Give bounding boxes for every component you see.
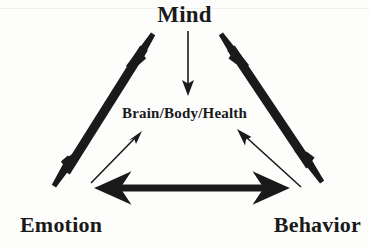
- node-label-behavior: Behavior: [274, 214, 361, 236]
- edge-mind-behavior-head-upper: [221, 34, 247, 67]
- edge-emotion-center: [91, 131, 142, 183]
- node-label-emotion: Emotion: [20, 214, 102, 236]
- node-label-brain-body-health: Brain/Body/Health: [0, 106, 369, 121]
- edge-mind-behavior-head-lower: [296, 149, 322, 182]
- relationship-triangle-diagram: [0, 0, 369, 248]
- node-label-mind: Mind: [0, 3, 369, 26]
- edge-mind-emotion-head-upper: [128, 34, 153, 68]
- edge-mind-center: [182, 31, 194, 96]
- diagram-canvas: Mind Brain/Body/Health Emotion Behavior: [0, 0, 369, 248]
- edge-emotion-behavior: [99, 176, 285, 200]
- edge-behavior-center-head: [237, 129, 252, 146]
- edge-mind-emotion-head-lower: [54, 153, 79, 187]
